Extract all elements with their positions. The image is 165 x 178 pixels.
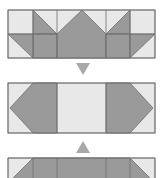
bottom-block bbox=[8, 158, 155, 178]
up-arrow-icon bbox=[76, 141, 90, 153]
top-block bbox=[8, 10, 155, 58]
down-arrow-icon bbox=[76, 63, 90, 75]
quilt-diagram bbox=[0, 0, 165, 178]
middle-block bbox=[8, 83, 155, 133]
